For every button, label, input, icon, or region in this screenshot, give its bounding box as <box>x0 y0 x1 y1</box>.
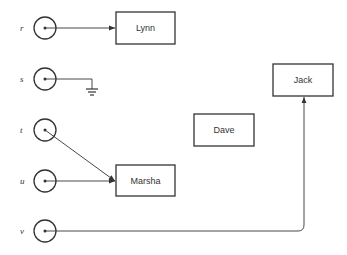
source-node-t: t <box>20 119 56 141</box>
source-label-u: u <box>20 176 25 186</box>
box-jack: Jack <box>273 64 333 96</box>
source-label-t: t <box>20 125 23 135</box>
box-label-marsha: Marsha <box>130 176 160 186</box>
connection-t-to-marsha <box>45 130 115 181</box>
source-label-s: s <box>20 74 24 84</box>
box-label-jack: Jack <box>294 75 313 85</box>
box-lynn: Lynn <box>116 12 175 44</box>
box-marsha: Marsha <box>116 165 175 196</box>
connection-v-to-jack <box>45 97 304 231</box>
ground-icon <box>86 89 98 95</box>
source-label-v: v <box>20 226 24 236</box>
source-label-r: r <box>20 23 24 33</box>
box-dave: Dave <box>194 114 254 146</box>
box-label-dave: Dave <box>213 125 234 135</box>
box-label-lynn: Lynn <box>136 23 155 33</box>
wiring-diagram: r s t u v Lynn Jack <box>0 0 347 255</box>
